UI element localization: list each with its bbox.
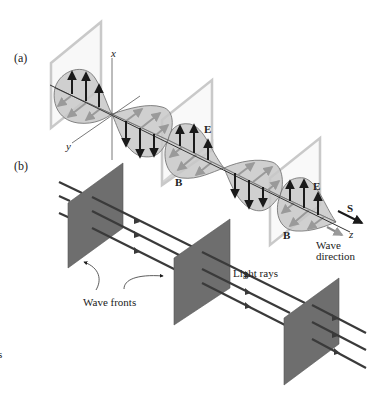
z-axis-label: z xyxy=(348,228,354,240)
wave-fronts-label: Wave fronts xyxy=(83,296,136,308)
light-ray-stub xyxy=(59,182,82,193)
wave-direction-label-line2: direction xyxy=(316,250,356,262)
wave-direction-arrow xyxy=(327,227,342,235)
wave-front-1 xyxy=(68,163,123,268)
poynting-label: S xyxy=(347,202,353,214)
e-label-2: E xyxy=(313,180,320,192)
panel-a: (a) xyxy=(14,22,362,262)
light-rays-label: Light rays xyxy=(233,267,278,279)
panel-a-label: (a) xyxy=(14,51,27,65)
wave-front-2 xyxy=(174,219,230,325)
light-ray-stub xyxy=(59,196,70,201)
x-axis-label: x xyxy=(110,47,116,59)
wave-fronts-pointer-1 xyxy=(84,262,99,290)
b-label-1: B xyxy=(175,176,183,188)
margin-text-fragment: s xyxy=(0,348,2,360)
y-axis-label: y xyxy=(65,140,71,152)
e-label-1: E xyxy=(204,123,211,135)
b-label-2: B xyxy=(283,229,291,241)
panel-b-label: (b) xyxy=(14,159,28,173)
em-wave-diagram: (a) xyxy=(0,0,379,395)
wave-fronts-pointer-2 xyxy=(124,276,163,289)
